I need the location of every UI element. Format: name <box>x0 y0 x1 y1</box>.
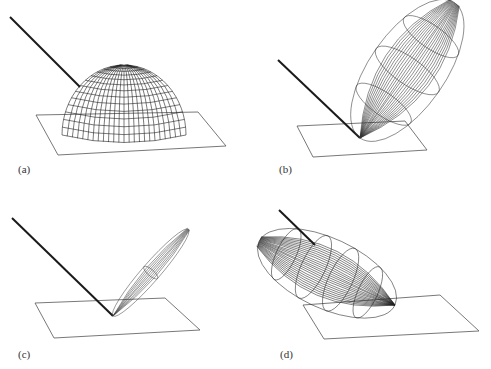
diffuse-hemisphere-diagram <box>0 0 245 185</box>
hemisphere-wireframe <box>62 65 186 143</box>
surface-plane <box>36 112 226 155</box>
lobe-wireframe <box>329 0 486 160</box>
backscatter-lobe-diagram <box>245 185 490 369</box>
panel-label-a: (a) <box>18 163 30 175</box>
panel-label-d: (d) <box>280 348 293 360</box>
panel-b: (b) <box>245 0 490 185</box>
incident-ray <box>12 218 113 316</box>
panel-c: (c) <box>0 185 245 369</box>
incident-ray <box>278 60 360 138</box>
narrow-lobe-diagram <box>0 185 245 369</box>
lobe-wireframe <box>245 210 410 337</box>
panel-label-b: (b) <box>279 163 292 175</box>
surface-plane <box>35 298 200 338</box>
incident-ray <box>10 17 80 87</box>
panel-label-c: (c) <box>18 348 30 360</box>
lobe-wireframe <box>106 223 195 322</box>
panel-d: (d) <box>245 185 490 369</box>
specular-lobe-diagram <box>245 0 490 185</box>
panel-a: (a) <box>0 0 245 185</box>
